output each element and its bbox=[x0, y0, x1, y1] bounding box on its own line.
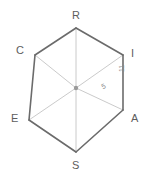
center-point bbox=[74, 86, 78, 90]
vertex-label-R: R bbox=[72, 10, 80, 21]
vertex-label-E: E bbox=[11, 113, 19, 124]
vertex-label-S: S bbox=[72, 160, 80, 171]
vertex-label-C: C bbox=[16, 45, 24, 56]
vertex-label-I: I bbox=[131, 48, 134, 59]
edge-EC bbox=[29, 55, 35, 120]
hexagon-drawing bbox=[0, 0, 152, 180]
hexagon-figure: R I A S E C 5 11 bbox=[0, 0, 152, 180]
vertex-label-A: A bbox=[131, 113, 139, 124]
measure-label-side: 11 bbox=[118, 65, 125, 72]
radius-center-E bbox=[29, 88, 76, 120]
edge-SE bbox=[29, 120, 76, 152]
edge-RI bbox=[76, 28, 123, 55]
center-dot bbox=[74, 86, 78, 90]
radius-center-C bbox=[35, 55, 76, 88]
edge-CR bbox=[35, 28, 76, 55]
radius-center-A bbox=[76, 88, 123, 110]
edge-AS bbox=[76, 110, 123, 152]
